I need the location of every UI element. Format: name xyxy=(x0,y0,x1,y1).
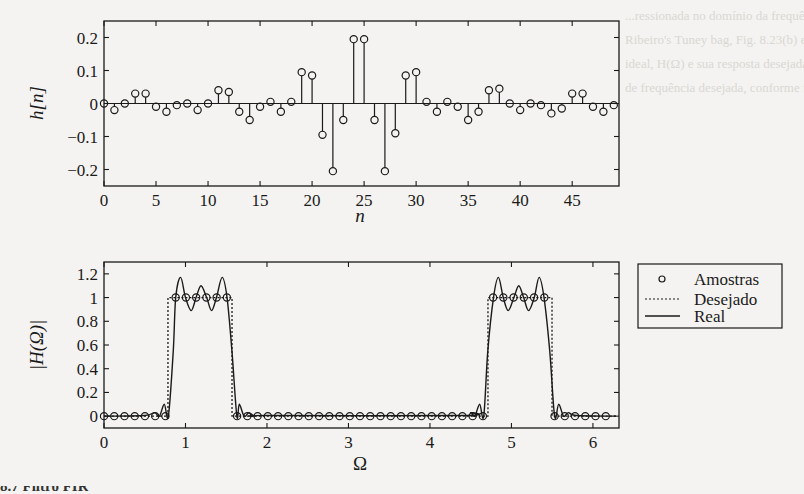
y-axis-label: |H(Ω)| xyxy=(26,320,48,371)
stem-marker xyxy=(517,107,524,114)
x-tick-label: 0 xyxy=(100,433,109,452)
x-tick-label: 20 xyxy=(304,191,321,210)
stem-marker xyxy=(308,72,315,79)
stem-marker xyxy=(173,102,180,109)
stem-marker xyxy=(277,108,284,115)
stem-marker xyxy=(392,130,399,137)
stem-marker xyxy=(444,98,451,105)
stem-marker xyxy=(329,168,336,175)
x-tick-label: 10 xyxy=(200,191,217,210)
frequency-response-plot: 012345600.20.40.60.811.2 Ω |H(Ω)| Amostr… xyxy=(26,262,782,474)
y-tick-label: −0.2 xyxy=(67,161,98,180)
stem-marker xyxy=(236,108,243,115)
x-axis-label: n xyxy=(355,205,365,226)
stem-marker xyxy=(465,116,472,123)
y-tick-label: 0.6 xyxy=(77,336,98,355)
legend-label-real: Real xyxy=(694,307,725,326)
x-tick-label: 6 xyxy=(589,433,598,452)
figure: 051015202530354045−0.2−0.100.10.2 n h[n]… xyxy=(0,0,804,494)
stem-marker xyxy=(600,108,607,115)
x-tick-label: 2 xyxy=(263,433,272,452)
x-tick-label: 40 xyxy=(512,191,529,210)
x-tick-label: 3 xyxy=(344,433,353,452)
stem-marker xyxy=(475,108,482,115)
stem-marker xyxy=(111,107,118,114)
stem-marker xyxy=(132,90,139,97)
stem-marker xyxy=(371,116,378,123)
response-series xyxy=(100,277,616,419)
x-tick-label: 0 xyxy=(100,191,109,210)
stem-marker xyxy=(267,98,274,105)
stem-marker xyxy=(485,87,492,94)
stem-marker xyxy=(454,103,461,110)
x-tick-label: 35 xyxy=(460,191,477,210)
stem-marker xyxy=(402,72,409,79)
stem-marker xyxy=(288,98,295,105)
axis-ticks: 012345600.20.40.60.811.2 xyxy=(77,262,619,452)
y-tick-label: 0.2 xyxy=(77,29,98,48)
stem-marker xyxy=(319,131,326,138)
stem-marker xyxy=(163,108,170,115)
y-tick-label: 0.4 xyxy=(77,360,99,379)
stem-marker xyxy=(194,107,201,114)
stem-marker xyxy=(215,87,222,94)
x-tick-label: 4 xyxy=(426,433,435,452)
y-axis-label: h[n] xyxy=(26,86,47,120)
stem-marker xyxy=(558,105,565,112)
x-tick-label: 30 xyxy=(408,191,425,210)
stem-marker xyxy=(350,36,357,43)
desired-response-line xyxy=(104,298,616,417)
stem-marker xyxy=(246,116,253,123)
stem-marker xyxy=(152,103,159,110)
y-tick-label: 1 xyxy=(90,289,99,308)
stem-marker xyxy=(423,98,430,105)
stem-marker xyxy=(610,102,617,109)
x-tick-label: 1 xyxy=(181,433,190,452)
x-tick-label: 5 xyxy=(152,191,161,210)
stem-marker xyxy=(537,102,544,109)
y-tick-label: −0.1 xyxy=(67,128,98,147)
stem-marker xyxy=(256,103,263,110)
legend: Amostras Desejado Real xyxy=(638,264,782,328)
stem-marker xyxy=(298,69,305,76)
legend-label-amostras: Amostras xyxy=(694,270,759,289)
stem-marker xyxy=(548,110,555,117)
actual-response-line xyxy=(104,277,616,418)
stem-marker xyxy=(142,90,149,97)
stem-marker xyxy=(579,90,586,97)
impulse-response-plot: 051015202530354045−0.2−0.100.10.2 n h[n] xyxy=(26,21,619,226)
y-tick-label: 1.2 xyxy=(77,265,98,284)
y-tick-label: 0 xyxy=(90,95,99,114)
y-tick-label: 0 xyxy=(90,407,99,426)
stem-marker xyxy=(496,85,503,92)
stem-series xyxy=(100,36,619,175)
stem-marker xyxy=(381,168,388,175)
y-tick-label: 0.8 xyxy=(77,312,98,331)
stem-marker xyxy=(589,103,596,110)
y-tick-label: 0.2 xyxy=(77,383,98,402)
x-tick-label: 45 xyxy=(564,191,581,210)
y-tick-label: 0.1 xyxy=(77,62,98,81)
x-axis-label: Ω xyxy=(353,453,367,474)
stem-marker xyxy=(225,88,232,95)
stem-marker xyxy=(340,116,347,123)
stem-marker xyxy=(433,108,440,115)
x-tick-label: 15 xyxy=(252,191,269,210)
stem-marker xyxy=(413,69,420,76)
stem-marker xyxy=(569,90,576,97)
stem-marker xyxy=(361,36,368,43)
x-tick-label: 5 xyxy=(507,433,516,452)
